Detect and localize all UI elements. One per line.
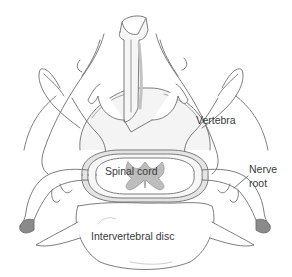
spine-diagram: Vertebra Spinal cord Nerve root Interver… — [0, 0, 292, 277]
nerve-root-leader — [234, 176, 248, 188]
nerve-root-right-end — [256, 219, 270, 233]
label-spinal-cord: Spinal cord — [105, 165, 158, 177]
label-vertebra: Vertebra — [196, 114, 236, 126]
label-nerve-line2: root — [249, 177, 267, 189]
label-intervertebral-disc: Intervertebral disc — [91, 230, 174, 242]
label-nerve-line1: Nerve — [249, 163, 277, 175]
nerve-root-left-end — [20, 219, 34, 233]
